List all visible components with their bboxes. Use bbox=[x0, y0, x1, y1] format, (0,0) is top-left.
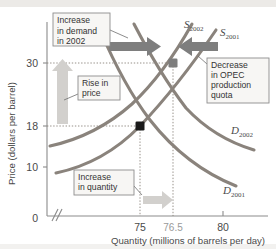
callout-opec-decrease-line-4: quota bbox=[211, 90, 233, 100]
callout-demand-increase-line-1: Increase bbox=[57, 15, 90, 25]
x-tick-label-80: 80 bbox=[217, 221, 229, 233]
quantity-increase-right-arrow bbox=[143, 191, 173, 209]
callout-rise-in-price-line-2: price bbox=[82, 88, 101, 98]
callout-opec-decrease-line-2: in OPEC bbox=[211, 70, 244, 80]
callout-opec-decrease: Decrease in OPEC production quota bbox=[198, 56, 269, 103]
leader-quantity-increase bbox=[134, 186, 142, 195]
y-tick-label-0: 0 bbox=[32, 212, 38, 224]
demand-curve-2001 bbox=[100, 30, 236, 186]
callout-opec-decrease-line-1: Decrease bbox=[211, 60, 248, 70]
callout-quantity-increase-line-1: Increase bbox=[78, 172, 111, 182]
demand-shift-right-arrow bbox=[109, 37, 161, 56]
demand-2002-label: D2002 bbox=[230, 124, 253, 139]
x-axis-title: Quantity (millions of barrels per day) bbox=[111, 235, 265, 246]
callout-quantity-increase: Increase in quantity bbox=[74, 170, 142, 195]
supply-2001-label: S2001 bbox=[220, 26, 240, 41]
callout-opec-decrease-line-3: production bbox=[211, 80, 251, 90]
equilibrium-marker-2002 bbox=[169, 59, 178, 68]
supply-demand-figure: 30 18 10 0 75 76.5 80 Price (dollars per… bbox=[0, 0, 276, 249]
callout-rise-in-price: Rise in price bbox=[64, 76, 120, 100]
y-tick-label-18: 18 bbox=[26, 120, 38, 132]
equilibrium-marker-2001 bbox=[136, 122, 145, 131]
x-tick-label-75: 75 bbox=[134, 221, 146, 233]
leader-demand-increase bbox=[110, 30, 128, 38]
callout-quantity-increase-line-2: in quantity bbox=[78, 182, 118, 192]
callout-demand-increase-line-3: in 2002 bbox=[57, 36, 85, 46]
y-tick-label-10: 10 bbox=[26, 161, 38, 173]
callout-demand-increase: Increase in demand in 2002 bbox=[53, 13, 128, 46]
callout-rise-in-price-line-1: Rise in bbox=[82, 78, 108, 88]
y-tick-label-30: 30 bbox=[26, 57, 38, 69]
callout-demand-increase-line-2: in demand bbox=[57, 26, 97, 36]
x-tick-label-76-5: 76.5 bbox=[163, 222, 183, 233]
leader-opec-decrease bbox=[198, 56, 207, 64]
y-axis-title: Price (dollars per barrel) bbox=[6, 82, 17, 185]
price-rise-up-arrow bbox=[52, 59, 73, 124]
